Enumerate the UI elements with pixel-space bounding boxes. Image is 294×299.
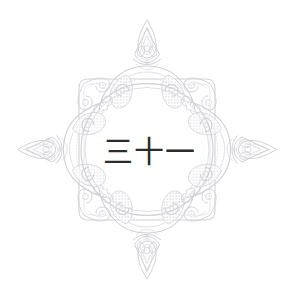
finial-left — [18, 96, 113, 203]
frame-rounded-square — [79, 79, 215, 220]
ornamental-medallion — [0, 0, 294, 299]
finial-bottom — [94, 184, 201, 279]
finial-top — [94, 20, 201, 115]
artwork-canvas: 三十一 — [0, 0, 294, 299]
finial-right — [182, 96, 277, 203]
